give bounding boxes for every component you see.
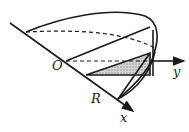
- label-radius: R: [90, 91, 101, 106]
- shaded-cross-section: [86, 53, 150, 75]
- label-x-axis: x: [120, 110, 128, 125]
- label-y-axis: y: [172, 64, 181, 79]
- top-curve: [26, 12, 157, 99]
- label-origin: O: [52, 58, 63, 73]
- diagram-canvas: O R x y: [0, 0, 189, 132]
